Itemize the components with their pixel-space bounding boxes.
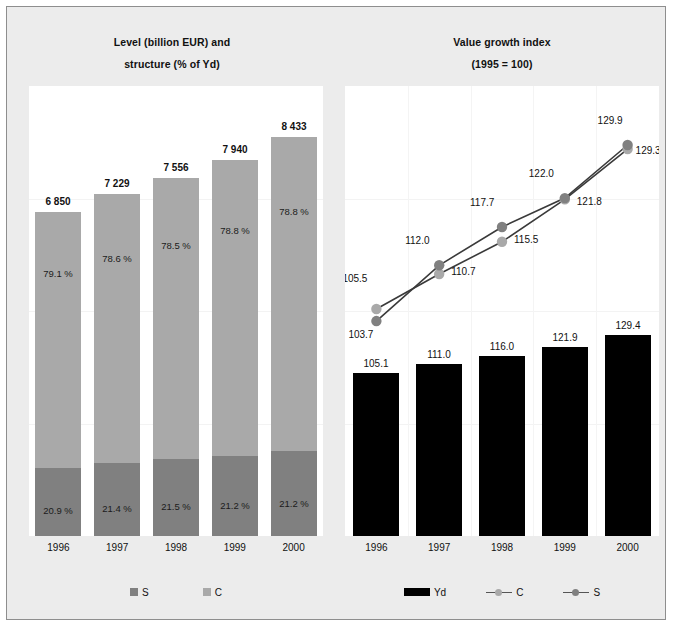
legend-item-Yd: Yd	[404, 587, 446, 598]
line-marker-S-1998	[497, 222, 507, 232]
chart-page: Level (billion EUR) and structure (% of …	[0, 0, 674, 630]
bar-segment-c: 78.8 %	[271, 137, 317, 451]
line-point-label-C-1998: 115.5	[514, 234, 538, 245]
bar-total-label: 6 850	[29, 196, 93, 207]
legend-label-S: S	[142, 587, 149, 598]
right-plot-area: 105.1111.0116.0121.9129.4105.5110.7115.5…	[345, 86, 659, 536]
line-point-label-S-1999: 122.0	[529, 168, 554, 179]
bar-segment-s: 21.5 %	[153, 459, 199, 536]
right-chart-title-line1: Value growth index	[337, 36, 667, 48]
legend-item-C: C	[203, 587, 222, 598]
bar-total-label: 7 556	[141, 162, 211, 173]
line-swatch-marker-C	[495, 589, 502, 596]
stacked-bar: 78.6 %21.4 %	[94, 194, 140, 536]
left-chart-title-line1: Level (billion EUR) and	[7, 36, 337, 48]
bar-segment-c-label: 78.6 %	[94, 253, 140, 264]
bar-segment-c: 78.6 %	[94, 194, 140, 463]
bar-segment-c-label: 79.1 %	[35, 268, 81, 279]
right-x-axis: 19961997199819992000	[345, 538, 659, 560]
left-x-axis: 19961997199819992000	[29, 538, 323, 560]
bar-segment-s-label: 21.4 %	[94, 503, 140, 514]
square-swatch-C	[203, 588, 211, 596]
bar-segment-c-label: 78.5 %	[153, 240, 199, 251]
bar-total-label: 7 940	[200, 144, 270, 155]
bar-segment-s-label: 20.9 %	[35, 505, 81, 516]
legend-item-S: S	[130, 587, 149, 598]
line-marker-S-1996	[371, 316, 381, 326]
line-marker-C-1998	[497, 237, 507, 247]
line-marker-S-2000	[622, 140, 632, 150]
bar-segment-c-label: 78.8 %	[271, 206, 317, 217]
panel-level-and-structure: Level (billion EUR) and structure (% of …	[7, 7, 337, 621]
right-chart-title-line2: (1995 = 100)	[337, 58, 667, 70]
bar-segment-c: 79.1 %	[35, 212, 81, 468]
right-legend: YdCS	[345, 582, 659, 602]
line-point-label-C-1997: 110.7	[451, 266, 475, 277]
bar-segment-c: 78.5 %	[153, 178, 199, 459]
legend-item-S: S	[563, 587, 600, 598]
legend-label-Yd: Yd	[434, 587, 446, 598]
bar-segment-s: 20.9 %	[35, 468, 81, 536]
line-swatch-marker-S	[572, 589, 579, 596]
line-point-label-C-1996: 105.5	[345, 273, 367, 284]
legend-item-C: C	[486, 587, 523, 598]
bar-segment-c: 78.8 %	[212, 160, 258, 456]
stacked-bar: 78.8 %21.2 %	[271, 137, 317, 536]
left-legend: SC	[29, 582, 323, 602]
bar-segment-s-label: 21.2 %	[271, 498, 317, 509]
x-axis-tick-1999: 1999	[530, 542, 600, 553]
bar-segment-c-label: 78.8 %	[212, 225, 258, 236]
bar-segment-s-label: 21.5 %	[153, 501, 199, 512]
x-axis-tick-2000: 2000	[593, 542, 663, 553]
line-point-label-C-2000: 129.3	[636, 145, 659, 156]
line-series-S	[376, 145, 627, 321]
bar-segment-s: 21.2 %	[212, 456, 258, 536]
bar-segment-s: 21.4 %	[94, 463, 140, 536]
line-marker-C-1996	[371, 304, 381, 314]
x-axis-tick-1996: 1996	[341, 542, 411, 553]
stacked-bar: 78.5 %21.5 %	[153, 178, 199, 536]
legend-label-C: C	[215, 587, 222, 598]
bar-segment-s-label: 21.2 %	[212, 500, 258, 511]
stacked-bar: 78.8 %21.2 %	[212, 160, 258, 536]
legend-label-S: S	[593, 587, 600, 598]
line-swatch-S	[563, 588, 589, 596]
stacked-bar: 79.1 %20.9 %	[35, 212, 81, 536]
line-point-label-S-1998: 117.7	[470, 197, 494, 208]
left-plot-area: 79.1 %20.9 %6 85078.6 %21.4 %7 22978.5 %…	[29, 86, 323, 536]
bar-total-label: 7 229	[82, 178, 152, 189]
panel-value-growth-index: Value growth index (1995 = 100) 105.1111…	[337, 7, 667, 621]
legend-label-C: C	[516, 587, 523, 598]
x-axis-tick-1998: 1998	[467, 542, 537, 553]
x-axis-tick-2000: 2000	[259, 542, 329, 553]
line-marker-S-1997	[434, 260, 444, 270]
line-swatch-C	[486, 588, 512, 596]
line-point-label-S-1996: 103.7	[348, 329, 373, 340]
x-axis-tick-1997: 1997	[404, 542, 474, 553]
bar-total-label: 8 433	[259, 121, 323, 132]
left-chart-title-line2: structure (% of Yd)	[7, 58, 337, 70]
growth-index-lines	[345, 86, 659, 536]
bar-swatch-Yd	[404, 588, 430, 596]
square-swatch-S	[130, 588, 138, 596]
chart-frame: Level (billion EUR) and structure (% of …	[6, 6, 666, 620]
line-marker-S-1999	[560, 193, 570, 203]
bar-segment-s: 21.2 %	[271, 451, 317, 536]
line-point-label-C-1999: 121.8	[577, 196, 602, 207]
line-point-label-S-2000: 129.9	[598, 115, 623, 126]
line-point-label-S-1997: 112.0	[405, 235, 429, 246]
